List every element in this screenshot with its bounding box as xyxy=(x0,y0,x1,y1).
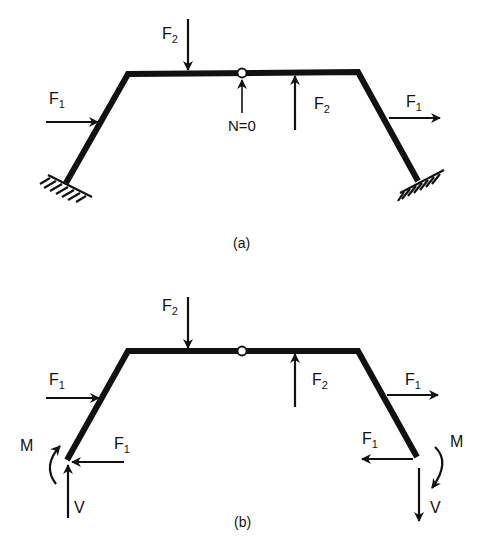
caption-b: (b) xyxy=(234,515,251,529)
hinge-a xyxy=(238,69,247,78)
arrow-m-right-b xyxy=(432,447,442,488)
panel-b xyxy=(46,297,442,521)
label-f2-right-a: F2 xyxy=(314,96,330,115)
hinge-b xyxy=(238,347,247,356)
label-m-left-b: M xyxy=(20,438,33,454)
label-f1-left-a: F1 xyxy=(49,91,65,110)
label-f2-top-a: F2 xyxy=(162,26,178,45)
label-n-equals-zero: N=0 xyxy=(228,118,256,133)
label-f1-left-b: F1 xyxy=(49,372,65,391)
fixed-support-right-a xyxy=(398,170,444,201)
label-f1-right-b: F1 xyxy=(405,372,421,391)
label-v-left-b: V xyxy=(74,500,85,516)
diagram-graphics xyxy=(0,0,484,556)
structural-diagram: F2 F1 N=0 F2 F1 (a) F2 F1 M F1 V F2 F1 F… xyxy=(0,0,484,556)
label-f1-right-a: F1 xyxy=(406,94,422,113)
label-f2-right-b: F2 xyxy=(312,372,328,391)
caption-a: (a) xyxy=(233,236,250,250)
label-v-right-b: V xyxy=(430,500,441,516)
label-m-right-b: M xyxy=(450,434,463,450)
arrow-m-left-b xyxy=(50,446,60,484)
panel-a xyxy=(40,19,444,202)
label-f1-reaction-right-b: F1 xyxy=(362,431,378,450)
label-f1-reaction-left-b: F1 xyxy=(114,436,130,455)
label-f2-top-b: F2 xyxy=(162,298,178,317)
